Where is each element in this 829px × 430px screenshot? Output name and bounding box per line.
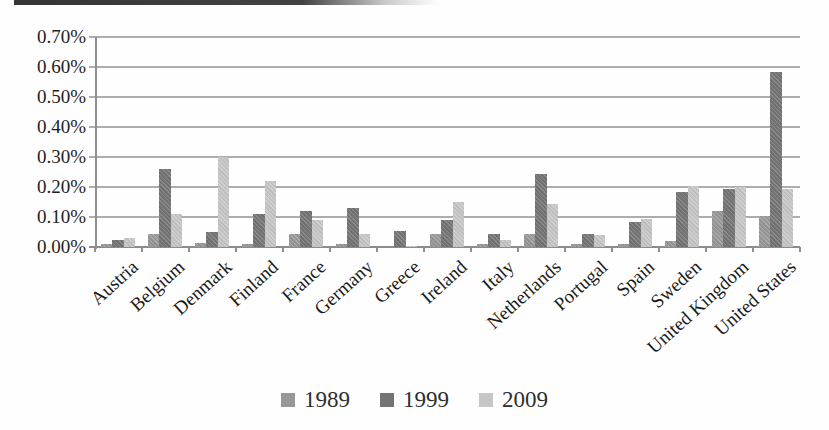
plot-area bbox=[95, 37, 800, 247]
y-axis-tick-label: 0.60% bbox=[6, 57, 86, 77]
bar-united-states-1999 bbox=[770, 72, 782, 248]
bar-france-1999 bbox=[300, 211, 312, 247]
bar-austria-2009 bbox=[124, 238, 136, 247]
bar-austria-1999 bbox=[112, 240, 124, 248]
bar-portugal-1999 bbox=[582, 234, 594, 248]
chart-legend: 198919992009 bbox=[0, 388, 829, 412]
gridline bbox=[89, 96, 800, 98]
x-axis-tick bbox=[611, 247, 613, 252]
bar-denmark-1989 bbox=[195, 243, 207, 248]
y-axis-tick-label: 0.10% bbox=[6, 207, 86, 227]
x-axis-tick bbox=[329, 247, 331, 252]
bar-sweden-1989 bbox=[665, 241, 677, 247]
x-axis-tick bbox=[752, 247, 754, 252]
y-axis-tick-label: 0.70% bbox=[6, 27, 86, 47]
x-axis-tick bbox=[470, 247, 472, 252]
x-axis-tick bbox=[705, 247, 707, 252]
bar-sweden-1999 bbox=[676, 192, 688, 248]
x-axis-tick bbox=[376, 247, 378, 252]
bar-portugal-1989 bbox=[571, 244, 583, 247]
bar-france-1989 bbox=[289, 234, 301, 248]
x-axis-tick bbox=[141, 247, 143, 252]
x-axis-tick bbox=[282, 247, 284, 252]
bar-united-kingdom-1989 bbox=[712, 211, 724, 247]
y-axis-tick-label: 0.50% bbox=[6, 87, 86, 107]
bar-denmark-1999 bbox=[206, 232, 218, 247]
bar-belgium-1999 bbox=[159, 169, 171, 247]
x-axis-tick bbox=[658, 247, 660, 252]
legend-label: 1989 bbox=[304, 388, 350, 412]
legend-label: 2009 bbox=[502, 388, 548, 412]
bar-germany-1989 bbox=[336, 244, 348, 247]
bar-italy-1989 bbox=[477, 244, 489, 247]
bar-united-states-2009 bbox=[782, 189, 794, 248]
bar-finland-2009 bbox=[265, 181, 277, 247]
bar-france-2009 bbox=[312, 220, 324, 247]
bar-portugal-2009 bbox=[594, 235, 606, 247]
y-axis-tick-label: 0.00% bbox=[6, 237, 86, 257]
y-axis-tick-label: 0.40% bbox=[6, 117, 86, 137]
gridline bbox=[89, 126, 800, 128]
bar-greece-1999 bbox=[394, 231, 406, 248]
legend-swatch-1989 bbox=[281, 393, 295, 407]
x-axis-label-ireland: Ireland bbox=[417, 256, 472, 308]
bar-belgium-1989 bbox=[148, 234, 160, 248]
legend-item-1989: 1989 bbox=[281, 388, 350, 412]
x-axis-label-finland: Finland bbox=[225, 256, 283, 311]
x-axis-tick bbox=[235, 247, 237, 252]
bar-netherlands-2009 bbox=[547, 204, 559, 248]
bar-italy-2009 bbox=[500, 240, 512, 248]
gridline bbox=[89, 66, 800, 68]
bar-italy-1999 bbox=[488, 234, 500, 248]
x-axis-label-greece: Greece bbox=[370, 256, 425, 308]
bar-spain-2009 bbox=[641, 219, 653, 248]
bar-germany-1999 bbox=[347, 208, 359, 247]
y-axis-line bbox=[95, 37, 97, 249]
bar-ireland-1989 bbox=[430, 234, 442, 248]
bar-belgium-2009 bbox=[171, 214, 183, 247]
gridline bbox=[89, 36, 800, 38]
bar-spain-1989 bbox=[618, 244, 630, 247]
legend-item-1999: 1999 bbox=[380, 388, 449, 412]
grouped-bar-chart: 0.00%0.10%0.20%0.30%0.40%0.50%0.60%0.70%… bbox=[0, 0, 829, 430]
bar-austria-1989 bbox=[101, 244, 113, 247]
y-axis-tick-label: 0.30% bbox=[6, 147, 86, 167]
bar-ireland-1999 bbox=[441, 220, 453, 247]
bar-united-kingdom-2009 bbox=[735, 187, 747, 247]
bar-denmark-2009 bbox=[218, 157, 230, 247]
bar-netherlands-1989 bbox=[524, 234, 536, 248]
x-axis-tick bbox=[423, 247, 425, 252]
bar-finland-1989 bbox=[242, 244, 254, 247]
legend-item-2009: 2009 bbox=[479, 388, 548, 412]
bar-united-kingdom-1999 bbox=[723, 189, 735, 248]
bar-ireland-2009 bbox=[453, 202, 465, 247]
bar-netherlands-1999 bbox=[535, 174, 547, 248]
legend-label: 1999 bbox=[403, 388, 449, 412]
x-axis-tick bbox=[188, 247, 190, 252]
x-axis-tick bbox=[799, 247, 801, 252]
bar-united-states-1989 bbox=[759, 216, 771, 248]
legend-swatch-2009 bbox=[479, 393, 493, 407]
x-axis-tick bbox=[564, 247, 566, 252]
bar-greece-2009 bbox=[406, 246, 418, 248]
bar-sweden-2009 bbox=[688, 186, 700, 248]
bar-spain-1999 bbox=[629, 222, 641, 248]
scanned-bar-chart-page: 0.00%0.10%0.20%0.30%0.40%0.50%0.60%0.70%… bbox=[0, 0, 829, 430]
x-axis-tick bbox=[517, 247, 519, 252]
y-axis-tick-label: 0.20% bbox=[6, 177, 86, 197]
bar-finland-1999 bbox=[253, 214, 265, 247]
legend-swatch-1999 bbox=[380, 393, 394, 407]
bar-germany-2009 bbox=[359, 234, 371, 248]
gridline bbox=[89, 156, 800, 158]
